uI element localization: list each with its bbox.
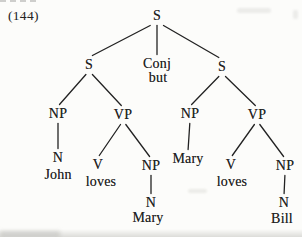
scanned-book-page: (144) SSConjbutSNPVPNPVPNJohnVlovesNPMar… [0,0,302,237]
tree-node-v-2: V [226,158,236,172]
scan-artifact-top-right [237,8,271,13]
tree-node-np-2: NP [181,107,199,121]
tree-node-mary-2: Mary [132,211,163,225]
tree-node-john: John [44,168,71,182]
tree-node-conj: Conj [143,57,171,71]
tree-edge-s-right--np-2 [192,77,219,105]
tree-node-n-3: N [279,196,289,210]
tree-edge-s-root--s-right [164,26,219,58]
tree-edge-vp-1--v-1 [99,125,120,156]
tree-node-v-1: V [93,158,103,172]
tree-edge-np-2--mary-1 [188,124,190,150]
tree-node-np-1: NP [49,107,67,121]
scan-artifact-middle [188,189,207,193]
tree-edge-vp-2--np-4 [260,125,284,157]
tree-node-np-4: NP [276,159,294,173]
tree-node-but: but [149,71,168,85]
tree-node-bill: Bill [271,212,293,226]
tree-node-mary-1: Mary [172,152,203,166]
tree-node-s-root: S [153,9,161,23]
tree-node-loves-2: loves [217,175,248,189]
tree-edge-s-root--s-left [92,26,150,56]
tree-node-s-right: S [218,60,226,74]
tree-node-n-1: N [53,151,63,165]
tree-node-loves-1: loves [86,175,117,189]
tree-node-vp-1: VP [114,108,132,122]
scan-artifact-right-edge [293,10,298,19]
tree-node-n-2: N [146,196,156,210]
tree-edge-s-right--vp-2 [226,77,256,106]
tree-edge-np-4--n-3 [284,176,285,194]
scan-shadow-bottom-left [0,231,60,237]
tree-node-vp-2: VP [248,108,266,122]
tree-node-np-3: NP [142,159,160,173]
scan-artifact-top-left [0,0,40,2]
tree-edge-s-left--np-1 [60,75,86,105]
tree-edge-vp-1--np-3 [126,125,150,157]
tree-node-s-left: S [85,58,93,72]
tree-edge-s-left--vp-1 [92,75,121,106]
tree-edge-vp-2--v-2 [232,125,254,156]
